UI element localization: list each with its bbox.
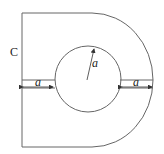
- left-gap-label: a: [35, 75, 41, 89]
- d-shape-diagram: C a a a: [0, 0, 164, 154]
- inner-circle: [55, 46, 121, 112]
- right-gap-label: a: [133, 75, 139, 89]
- shape-label: C: [10, 45, 18, 59]
- radius-label: a: [92, 56, 98, 70]
